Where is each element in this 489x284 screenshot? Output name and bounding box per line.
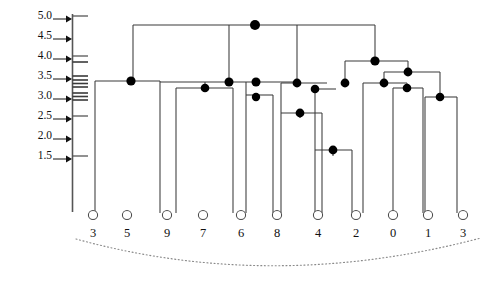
arrow-head-icon xyxy=(66,156,72,163)
svg-text:5.0: 5.0 xyxy=(38,9,53,21)
merge-node-n11 xyxy=(252,93,260,101)
merge-node-n14 xyxy=(296,109,305,118)
merge-node-root xyxy=(250,20,260,30)
y-tick-4-0: 4.0 xyxy=(38,49,72,63)
y-tick-3-0: 3.0 xyxy=(38,89,72,103)
leaf-label-4: 6 xyxy=(238,226,244,240)
arrow-head-icon xyxy=(66,36,72,43)
y-tick-4-5: 4.5 xyxy=(38,29,72,43)
leaf-marker-9[interactable] xyxy=(423,210,432,219)
y-tick-2-5: 2.5 xyxy=(38,109,72,123)
leaf-label-8: 0 xyxy=(390,226,396,240)
leaf-marker-2[interactable] xyxy=(162,210,171,219)
dotted-span-arc xyxy=(76,238,481,266)
svg-text:2.0: 2.0 xyxy=(38,129,53,141)
merge-node-n10 xyxy=(201,84,210,93)
y-tick-1-5: 1.5 xyxy=(38,149,72,163)
svg-text:3.5: 3.5 xyxy=(38,69,53,81)
leaf-labels: 3 5 9 7 6 8 4 2 0 1 3 xyxy=(90,226,466,240)
dendrogram-figure: 5.0 4.5 4.0 3.5 3.0 xyxy=(0,0,489,284)
leaf-marker-8[interactable] xyxy=(388,210,397,219)
arrow-head-icon xyxy=(66,136,72,143)
y-tick-3-5: 3.5 xyxy=(38,69,72,83)
merge-height-ticks xyxy=(73,62,89,100)
svg-text:4.5: 4.5 xyxy=(38,29,53,41)
merge-node-n12 xyxy=(311,85,320,94)
merge-node-n4 xyxy=(341,79,350,88)
merge-node-n9 xyxy=(225,78,234,87)
merge-node-n5 xyxy=(126,76,135,85)
merge-node-n6b xyxy=(293,79,302,88)
merge-node-n3 xyxy=(404,68,413,77)
leaf-label-5: 8 xyxy=(274,226,280,240)
svg-text:2.5: 2.5 xyxy=(38,109,53,121)
merge-node-n8 xyxy=(403,84,412,93)
leaf-marker-1[interactable] xyxy=(122,210,131,219)
merge-nodes xyxy=(126,20,444,154)
leaf-label-2: 9 xyxy=(164,226,170,240)
arrow-head-icon xyxy=(66,16,72,23)
leaf-label-3: 7 xyxy=(200,226,206,240)
leaf-label-9: 1 xyxy=(425,226,431,240)
leaf-markers xyxy=(88,210,467,219)
leaf-marker-7[interactable] xyxy=(351,210,360,219)
svg-text:4.0: 4.0 xyxy=(38,49,53,61)
y-axis: 5.0 4.5 4.0 3.5 3.0 xyxy=(38,9,88,212)
leaf-marker-5[interactable] xyxy=(272,210,281,219)
leaf-label-0: 3 xyxy=(90,226,96,240)
merge-node-n7 xyxy=(380,79,389,88)
leaf-label-10: 3 xyxy=(460,226,466,240)
leaf-label-1: 5 xyxy=(124,226,130,240)
y-tick-5-0: 5.0 xyxy=(38,9,72,23)
leaf-label-6: 4 xyxy=(315,226,322,240)
leaf-marker-4[interactable] xyxy=(236,210,245,219)
dendrogram-tree xyxy=(95,25,457,213)
merge-node-n15 xyxy=(329,146,338,155)
svg-text:1.5: 1.5 xyxy=(38,149,53,161)
merge-node-n2 xyxy=(370,56,379,65)
y-tick-2-0: 2.0 xyxy=(38,129,72,143)
svg-text:3.0: 3.0 xyxy=(38,89,53,101)
arrow-head-icon xyxy=(66,56,72,63)
leaf-marker-6[interactable] xyxy=(313,210,322,219)
arrow-head-icon xyxy=(66,96,72,103)
leaf-label-7: 2 xyxy=(353,226,359,240)
arrow-head-icon xyxy=(66,116,72,123)
leaf-marker-10[interactable] xyxy=(458,210,467,219)
y-axis-tick-labels: 5.0 4.5 4.0 3.5 3.0 xyxy=(38,9,72,163)
arrow-head-icon xyxy=(66,76,72,83)
merge-node-n6 xyxy=(252,78,261,87)
merge-node-n13 xyxy=(436,93,445,102)
leaf-marker-0[interactable] xyxy=(88,210,97,219)
leaf-marker-3[interactable] xyxy=(198,210,207,219)
